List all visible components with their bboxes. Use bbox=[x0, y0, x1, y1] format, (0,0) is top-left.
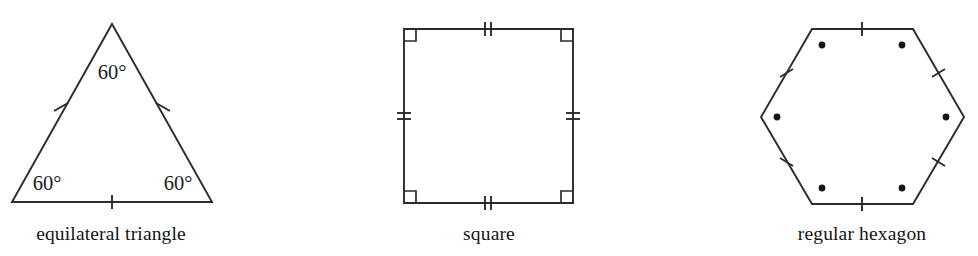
shape-group-square: square bbox=[397, 22, 580, 244]
regular-hexagon-outline bbox=[761, 29, 964, 204]
hexagon-angle-dot-left bbox=[774, 114, 781, 121]
hexagon-angle-dot-bottom-right bbox=[899, 185, 906, 192]
square-outline bbox=[404, 29, 573, 203]
shape-group-equilateral-triangle: 60° 60° 60° equilateral triangle bbox=[12, 24, 212, 244]
square-right-angle-mark-bottom-right bbox=[561, 191, 573, 203]
hexagon-angle-dot-top-right bbox=[899, 42, 906, 49]
hexagon-upper-right-side-tick bbox=[932, 69, 945, 77]
caption-equilateral-triangle: equilateral triangle bbox=[36, 223, 186, 244]
regular-polygons-figure: 60° 60° 60° equilateral triangle square bbox=[0, 0, 978, 256]
hexagon-angle-dot-bottom-left bbox=[819, 185, 826, 192]
square-right-angle-mark-bottom-left bbox=[404, 191, 416, 203]
triangle-bottom-left-angle-label: 60° bbox=[33, 172, 62, 194]
triangle-bottom-right-angle-label: 60° bbox=[164, 172, 193, 194]
shape-group-regular-hexagon: regular hexagon bbox=[761, 22, 964, 244]
hexagon-angle-dot-right bbox=[943, 114, 950, 121]
square-right-angle-mark-top-left bbox=[404, 29, 416, 41]
caption-square: square bbox=[463, 223, 515, 244]
caption-regular-hexagon: regular hexagon bbox=[798, 223, 927, 244]
hexagon-upper-left-side-tick bbox=[780, 69, 793, 77]
triangle-apex-angle-label: 60° bbox=[98, 61, 127, 83]
hexagon-angle-dot-top-left bbox=[819, 42, 826, 49]
square-right-angle-mark-top-right bbox=[561, 29, 573, 41]
